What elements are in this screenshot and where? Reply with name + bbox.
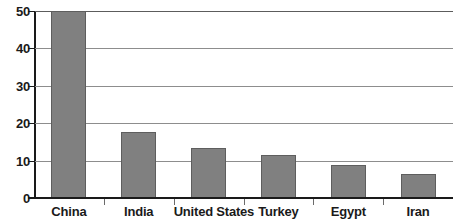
bar-chart: 01020304050 ChinaIndiaUnited StatesTurke… — [0, 0, 455, 223]
x-axis-tick-label: Iran — [383, 202, 453, 221]
bar — [191, 148, 226, 198]
bar — [121, 132, 156, 198]
y-axis-tick-mark — [28, 123, 35, 124]
x-axis-tick-mark — [244, 199, 245, 205]
x-axis-tick-label: Turkey — [244, 202, 314, 221]
y-axis-tick-label: 20 — [4, 117, 30, 130]
x-axis-tick-label: India — [104, 202, 174, 221]
bars-layer — [34, 11, 453, 198]
x-axis-tick-label: China — [34, 202, 104, 221]
bar — [331, 165, 366, 198]
y-axis-tick-mark — [28, 11, 35, 12]
bar — [51, 11, 86, 198]
x-axis-tick-label: Egypt — [313, 202, 383, 221]
y-axis-tick-mark — [28, 48, 35, 49]
x-axis-tick-mark — [104, 199, 105, 205]
y-axis-tick-label: 10 — [4, 154, 30, 167]
x-axis-tick-mark — [383, 199, 384, 205]
x-axis-tick-labels: ChinaIndiaUnited StatesTurkeyEgyptIran — [34, 202, 453, 223]
x-axis-tick-mark — [174, 199, 175, 205]
x-axis-tick-label: United States — [174, 202, 244, 221]
y-axis-tick-mark — [28, 86, 35, 87]
y-axis-tick-label: 50 — [4, 5, 30, 18]
y-axis-tick-label: 40 — [4, 42, 30, 55]
bar — [261, 155, 296, 198]
y-axis-tick-mark — [28, 198, 35, 199]
x-axis-line — [28, 197, 453, 199]
bar — [401, 174, 436, 198]
x-axis-tick-mark — [313, 199, 314, 205]
y-axis-tick-labels: 01020304050 — [0, 0, 30, 223]
y-axis-tick-mark — [28, 161, 35, 162]
y-axis-tick-label: 30 — [4, 79, 30, 92]
y-axis-tick-label: 0 — [4, 192, 30, 205]
